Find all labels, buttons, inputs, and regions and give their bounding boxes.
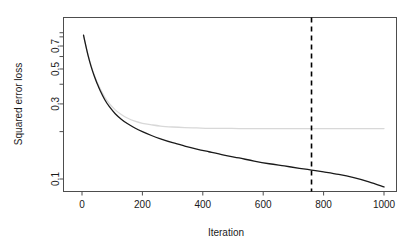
x-tick-label: 200 xyxy=(134,199,151,210)
x-tick-label: 0 xyxy=(79,199,85,210)
axis-tick-labels: 020040060080010000.10.30.50.7 xyxy=(50,39,396,210)
y-axis-title: Squared error loss xyxy=(13,63,24,145)
plot-canvas: 020040060080010000.10.30.50.7 Iteration … xyxy=(0,0,416,246)
chart-figure: 020040060080010000.10.30.50.7 Iteration … xyxy=(0,0,416,246)
y-tick-label: 0.7 xyxy=(50,39,61,53)
curve-test-loss xyxy=(84,35,384,128)
axis-ticks xyxy=(60,33,385,196)
curve-training-loss xyxy=(84,35,384,187)
y-tick-label: 0.1 xyxy=(50,172,61,186)
plot-frame xyxy=(64,18,397,192)
x-axis-title: Iteration xyxy=(208,227,244,238)
y-tick-label: 0.5 xyxy=(50,62,61,76)
data-curves xyxy=(84,35,384,187)
x-tick-label: 600 xyxy=(255,199,272,210)
x-tick-label: 1000 xyxy=(373,199,396,210)
x-tick-label: 800 xyxy=(315,199,332,210)
y-tick-label: 0.3 xyxy=(50,97,61,111)
x-tick-label: 400 xyxy=(194,199,211,210)
